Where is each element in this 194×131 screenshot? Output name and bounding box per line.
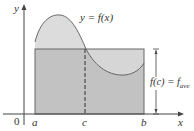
y-axis-label: y bbox=[14, 3, 19, 14]
tick-b: b bbox=[141, 117, 147, 128]
height-label-text: f(c) = f bbox=[150, 76, 180, 87]
height-label-sub: ave bbox=[180, 82, 190, 90]
mean-value-diagram: y y = f(x) 0 a c b x f(c) = fave bbox=[0, 0, 194, 131]
origin-label: 0 bbox=[14, 116, 20, 127]
y-axis-arrow bbox=[22, 4, 27, 10]
height-label: f(c) = fave bbox=[150, 77, 190, 90]
x-axis-label: x bbox=[178, 117, 183, 128]
curve-label: y = f(x) bbox=[80, 12, 113, 23]
tick-c: c bbox=[82, 117, 87, 128]
tick-a: a bbox=[32, 117, 38, 128]
